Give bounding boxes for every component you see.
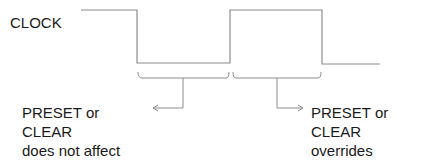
annotation-line: overrides <box>311 141 441 160</box>
annotation-line: PRESET or CLEAR <box>311 103 441 141</box>
high-phase-annotation: PRESET or CLEAR overrides clocking <box>311 103 441 160</box>
high-phase-bracket <box>233 72 321 78</box>
high-phase-pointer <box>277 78 302 108</box>
annotation-line: does not affect <box>22 141 152 160</box>
low-phase-pointer <box>153 78 183 108</box>
low-phase-bracket <box>138 72 229 78</box>
clock-waveform <box>81 10 380 64</box>
annotation-line: PRESET or CLEAR <box>22 103 152 141</box>
low-phase-annotation: PRESET or CLEAR does not affect clocking <box>22 103 152 160</box>
